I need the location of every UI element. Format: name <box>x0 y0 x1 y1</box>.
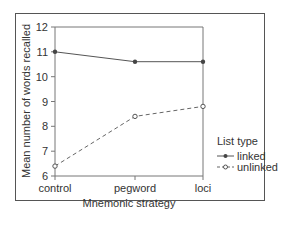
x-tick-pegword: pegword <box>114 182 156 194</box>
legend-item-unlinked: unlinked <box>217 161 278 173</box>
legend: List type linked unlinked <box>217 135 278 173</box>
y-tick-labels: 12 11 10 9 8 7 6 <box>36 21 48 182</box>
x-axis-title: Mnemonic strategy <box>83 197 176 209</box>
legend-title: List type <box>217 135 258 147</box>
legend-unlinked-marker-icon <box>224 165 228 169</box>
x-tick-labels: control pegword loci <box>38 182 211 194</box>
y-tick-10: 10 <box>36 71 48 83</box>
series-linked <box>53 50 205 64</box>
x-ticks <box>55 176 203 180</box>
marker-unlinked-control <box>53 164 57 168</box>
series-unlinked <box>53 104 205 168</box>
y-tick-12: 12 <box>36 21 48 33</box>
y-tick-8: 8 <box>42 120 48 132</box>
y-axis-title: Mean number of words recalled <box>20 24 32 178</box>
x-tick-control: control <box>38 182 71 194</box>
line-chart: 12 11 10 9 8 7 6 control pegword loci Mn… <box>0 0 294 228</box>
marker-unlinked-pegword <box>133 114 137 118</box>
plot-area <box>55 27 203 176</box>
y-tick-11: 11 <box>37 46 48 58</box>
outer-frame <box>16 14 265 201</box>
y-tick-6: 6 <box>42 170 48 182</box>
y-tick-9: 9 <box>42 96 48 108</box>
y-tick-7: 7 <box>42 145 48 157</box>
y-ticks <box>51 27 55 176</box>
marker-unlinked-loci <box>201 104 205 108</box>
legend-linked-marker-icon <box>224 154 228 158</box>
marker-linked-pegword <box>133 60 137 64</box>
legend-unlinked-label: unlinked <box>237 161 278 173</box>
marker-linked-control <box>53 50 57 54</box>
x-tick-loci: loci <box>195 182 212 194</box>
marker-linked-loci <box>201 60 205 64</box>
